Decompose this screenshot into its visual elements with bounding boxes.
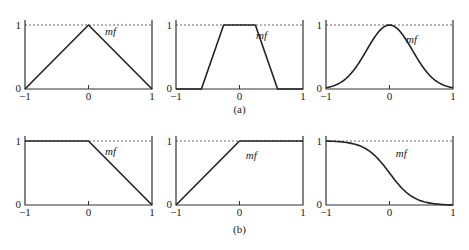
y-tick-1: 1 [167,19,173,31]
curve-label-mf: mf [105,145,118,157]
panel-sigmoid: 01−101mf [317,135,456,218]
x-tick--1: −1 [320,206,332,218]
x-tick-0: 0 [86,90,92,102]
membership-curve [176,25,303,89]
curve-label-mf: mf [406,33,419,45]
membership-curve [176,141,303,205]
membership-curve [326,25,453,88]
x-tick-0: 0 [86,206,92,218]
x-tick--1: −1 [19,90,31,102]
curve-label-mf: mf [256,29,269,41]
curve-label-mf: mf [105,25,118,37]
x-tick-0: 0 [237,90,243,102]
membership-function-figure: 01−101mf01−101mf01−101mf01−101mf01−101mf… [0,0,469,250]
y-tick-1: 1 [16,19,22,31]
axes-frame [176,136,303,205]
curve-label-mf: mf [246,149,259,161]
x-tick-1: 1 [149,90,155,102]
axes-frame [176,20,303,89]
x-tick--1: −1 [320,90,332,102]
panel-gaussian: 01−101mf [317,19,456,102]
x-tick-1: 1 [149,206,155,218]
panel-left-shoulder: 01−101mf [16,135,155,218]
panel-right-shoulder: 01−101mf [167,135,306,218]
y-tick-1: 1 [16,135,22,147]
caption-b: (b) [233,223,246,236]
y-tick-1: 1 [317,19,323,31]
x-tick-0: 0 [387,206,393,218]
x-tick--1: −1 [19,206,31,218]
x-tick-0: 0 [387,90,393,102]
x-tick-1: 1 [300,206,306,218]
membership-curve [25,141,152,205]
panel-trapezoidal: 01−101mf [167,19,306,102]
y-tick-1: 1 [317,135,323,147]
axes-frame [326,136,453,205]
caption-a: (a) [233,103,246,116]
x-tick-1: 1 [300,90,306,102]
x-tick-0: 0 [237,206,243,218]
y-tick-1: 1 [167,135,173,147]
x-tick--1: −1 [170,206,182,218]
curve-label-mf: mf [396,147,409,159]
x-tick-1: 1 [450,206,456,218]
membership-curve [326,141,453,205]
membership-curve [25,25,152,89]
panel-triangular: 01−101mf [16,19,155,102]
x-tick-1: 1 [450,90,456,102]
axes-frame [25,136,152,205]
x-tick--1: −1 [170,90,182,102]
axes-frame [25,20,152,89]
